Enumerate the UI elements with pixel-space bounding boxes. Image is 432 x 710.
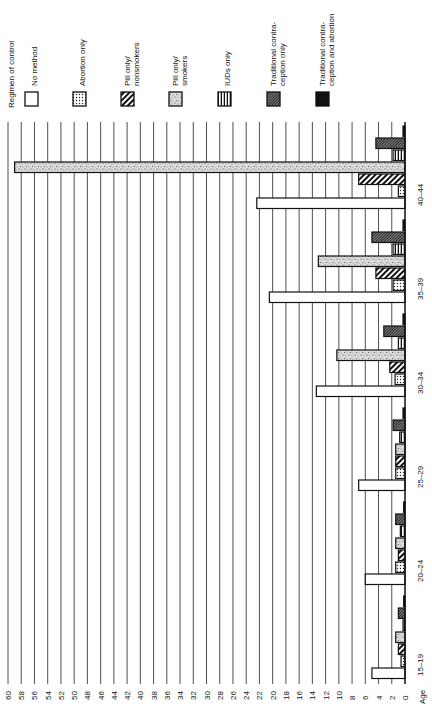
value-tick-label: 18 bbox=[282, 691, 291, 700]
legend-swatch bbox=[316, 92, 329, 106]
age-category-label: 20–24 bbox=[416, 559, 425, 582]
bar bbox=[376, 138, 405, 149]
value-tick-label: 12 bbox=[322, 691, 331, 700]
value-tick-label: 0 bbox=[401, 695, 410, 700]
value-tick-label: 14 bbox=[308, 691, 317, 700]
legend-label: Pill only/ bbox=[123, 55, 132, 86]
legend-label: No method bbox=[30, 47, 39, 86]
value-tick-label: 36 bbox=[163, 691, 172, 700]
bar bbox=[359, 174, 405, 185]
age-category-label: 15–19 bbox=[416, 653, 425, 676]
legend-label: nonsmokers bbox=[132, 42, 141, 86]
value-tick-label: 30 bbox=[203, 691, 212, 700]
value-tick-label: 22 bbox=[255, 691, 264, 700]
bar bbox=[396, 468, 405, 479]
value-tick-label: 6 bbox=[361, 695, 370, 700]
legend-label: ception only bbox=[278, 43, 287, 86]
age-category-label: 25–29 bbox=[416, 465, 425, 488]
bar bbox=[393, 420, 405, 431]
value-tick-label: 52 bbox=[57, 691, 66, 700]
value-tick-label: 54 bbox=[44, 691, 53, 700]
legend-swatch bbox=[169, 92, 182, 106]
bar bbox=[316, 386, 405, 397]
value-tick-label: 26 bbox=[229, 691, 238, 700]
bar bbox=[393, 280, 405, 291]
legend: Regimen of control No methodAbortion onl… bbox=[7, 14, 336, 109]
value-tick-label: 38 bbox=[150, 691, 159, 700]
bar bbox=[398, 338, 405, 349]
age-axis-labels: 15–1920–2425–2930–3435–3940–44 bbox=[416, 183, 425, 676]
value-tick-label: 46 bbox=[97, 691, 106, 700]
value-tick-label: 34 bbox=[176, 691, 185, 700]
value-tick-label: 50 bbox=[70, 691, 79, 700]
bar bbox=[376, 268, 405, 279]
legend-label: smokers bbox=[180, 56, 189, 86]
bar bbox=[393, 150, 405, 161]
bar bbox=[337, 350, 405, 361]
bar bbox=[400, 432, 405, 443]
bar bbox=[372, 232, 405, 243]
bar bbox=[384, 326, 405, 337]
value-tick-label: 40 bbox=[136, 691, 145, 700]
value-tick-label: 20 bbox=[269, 691, 278, 700]
age-axis-title: Age bbox=[418, 689, 427, 704]
bar bbox=[396, 538, 405, 549]
value-tick-label: 60 bbox=[4, 691, 13, 700]
bar bbox=[398, 550, 405, 561]
bar bbox=[359, 480, 405, 491]
legend-swatch bbox=[267, 92, 280, 106]
legend-label: IUDs only bbox=[223, 51, 232, 86]
legend-label: ception and abortion bbox=[327, 14, 336, 87]
legend-swatch bbox=[25, 92, 38, 106]
bar bbox=[396, 514, 405, 525]
bar bbox=[372, 668, 405, 679]
age-category-label: 30–34 bbox=[416, 371, 425, 394]
bar-series bbox=[15, 126, 405, 679]
legend-swatch bbox=[218, 92, 231, 106]
value-tick-label: 58 bbox=[17, 691, 26, 700]
bar bbox=[396, 632, 405, 643]
value-tick-label: 2 bbox=[388, 695, 397, 700]
bar bbox=[15, 162, 405, 173]
legend-title: Regimen of control bbox=[7, 41, 16, 108]
bar bbox=[365, 574, 405, 585]
bar bbox=[395, 374, 405, 385]
age-category-label: 35–39 bbox=[416, 277, 425, 300]
value-tick-label: 56 bbox=[30, 691, 39, 700]
value-tick-label: 42 bbox=[123, 691, 132, 700]
bar bbox=[398, 186, 405, 197]
bar bbox=[396, 444, 405, 455]
legend-swatch bbox=[121, 92, 134, 106]
legend-label: Pill only/ bbox=[171, 55, 180, 86]
bar bbox=[257, 198, 405, 209]
bar bbox=[396, 562, 405, 573]
value-tick-label: 16 bbox=[295, 691, 304, 700]
legend-label: Abortion only bbox=[78, 39, 87, 86]
value-axis-ticks: 0246810121416182022242628303234363840424… bbox=[4, 691, 410, 700]
bar bbox=[396, 456, 405, 467]
bar bbox=[318, 256, 405, 267]
bar bbox=[398, 644, 405, 655]
bar bbox=[393, 244, 405, 255]
age-category-label: 40–44 bbox=[416, 183, 425, 206]
value-tick-label: 32 bbox=[189, 691, 198, 700]
value-tick-label: 4 bbox=[375, 695, 384, 700]
bar-chart: Regimen of control No methodAbortion onl… bbox=[0, 0, 432, 710]
bar bbox=[398, 608, 405, 619]
value-tick-label: 44 bbox=[110, 691, 119, 700]
legend-swatch bbox=[73, 92, 86, 106]
legend-label: Traditional contra- bbox=[318, 21, 327, 86]
value-tick-label: 48 bbox=[83, 691, 92, 700]
value-tick-label: 28 bbox=[216, 691, 225, 700]
value-tick-label: 8 bbox=[348, 695, 357, 700]
bar bbox=[269, 292, 405, 303]
value-tick-label: 10 bbox=[335, 691, 344, 700]
value-tick-label: 24 bbox=[242, 691, 251, 700]
legend-label: Traditional contra- bbox=[269, 21, 278, 86]
bar bbox=[390, 362, 405, 373]
